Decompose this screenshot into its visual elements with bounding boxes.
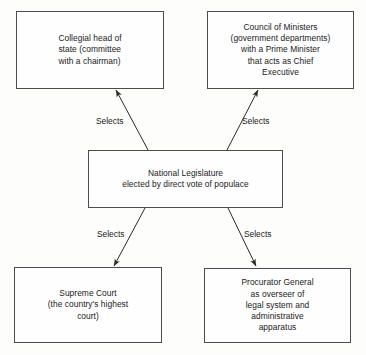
node-national-legislature: National Legislature elected by direct v… (88, 150, 283, 208)
node-supreme-court: Supreme Court (the country's highest cou… (14, 267, 162, 343)
node-national-legislature-label: National Legislature elected by direct v… (116, 168, 254, 190)
government-structure-diagram: Collegial head of state (committee with … (0, 0, 366, 355)
node-procurator-general: Procurator General as overseer of legal … (204, 268, 351, 343)
node-council-ministers: Council of Ministers (government departm… (207, 11, 354, 89)
node-supreme-court-label: Supreme Court (the country's highest cou… (42, 288, 134, 322)
node-head-of-state-label: Collegial head of state (committee with … (52, 33, 127, 67)
node-council-ministers-label: Council of Ministers (government departm… (225, 22, 337, 78)
edge-label-legislature-to-procurator-general: Selects (244, 229, 271, 240)
edge-label-legislature-to-supreme-court: Selects (97, 229, 124, 240)
edge-label-legislature-to-head-of-state: Selects (96, 116, 123, 127)
edge-label-legislature-to-council-ministers: Selects (242, 116, 269, 127)
node-procurator-general-label: Procurator General as overseer of legal … (235, 277, 319, 333)
node-head-of-state: Collegial head of state (committee with … (16, 11, 164, 89)
